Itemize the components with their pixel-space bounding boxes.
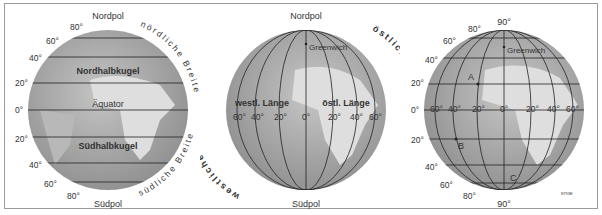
lat-label: 80° bbox=[463, 191, 476, 201]
lat-label: 60° bbox=[443, 36, 456, 46]
point-c-label: C bbox=[510, 173, 517, 183]
suedpol-label: Südpol bbox=[292, 199, 320, 209]
point-a-label: A bbox=[468, 72, 474, 82]
lon-label: 60° bbox=[430, 104, 443, 114]
lon-label: 40° bbox=[251, 112, 264, 122]
lon-label: 0° bbox=[302, 112, 310, 122]
lat-label: 40° bbox=[29, 160, 42, 170]
lat-label: 20° bbox=[15, 78, 28, 88]
lon-label: 0° bbox=[500, 104, 508, 114]
greenwich-marker bbox=[503, 46, 506, 49]
lat-label: 80° bbox=[70, 22, 83, 32]
greenwich-label: Greenwich bbox=[507, 46, 545, 55]
lat-label: 40° bbox=[29, 53, 42, 63]
panel-longitude: Greenwich Nordpol Südpol westl. Länge ös… bbox=[200, 0, 400, 215]
lat-label: 60° bbox=[46, 36, 59, 46]
nordpol-label: Nordpol bbox=[290, 11, 322, 21]
point-a-marker bbox=[477, 83, 480, 86]
suedpol-label: Südpol bbox=[94, 199, 122, 209]
lat-label: 40° bbox=[425, 55, 438, 65]
east-label: östl. Länge bbox=[322, 98, 370, 108]
lat-label: 80° bbox=[468, 24, 481, 34]
point-b-label: B bbox=[458, 141, 464, 151]
lat-label: 40° bbox=[425, 162, 438, 172]
lat-label: 60° bbox=[44, 179, 57, 189]
nordpol-label: Nordpol bbox=[92, 11, 124, 21]
lon-label: 60° bbox=[566, 104, 579, 114]
figure-code: 8793E bbox=[561, 191, 573, 196]
lat-label: 60° bbox=[440, 180, 453, 190]
lon-label: 20° bbox=[526, 104, 539, 114]
greenwich-label: Greenwich bbox=[309, 43, 347, 52]
lon-label: 40° bbox=[547, 104, 560, 114]
lon-label: 60° bbox=[233, 112, 246, 122]
lat-label: 80° bbox=[67, 191, 80, 201]
nordhalbkugel-label: Nordhalbkugel bbox=[76, 66, 139, 76]
panel-grid: Greenwich A B C 90° 90° 80° 60° 40° 20° … bbox=[400, 0, 600, 215]
lat-label: 0° bbox=[15, 105, 23, 115]
lon-label: 40° bbox=[350, 112, 363, 122]
lat-label: 0° bbox=[411, 105, 419, 115]
panel-latitude: Nordpol Südpol Nordhalbkugel Äquator Süd… bbox=[0, 0, 200, 215]
lat-label: 20° bbox=[411, 78, 424, 88]
lat-label: 20° bbox=[15, 134, 28, 144]
lon-label: 20° bbox=[274, 112, 287, 122]
north-90-label: 90° bbox=[497, 17, 511, 27]
lon-label: 40° bbox=[448, 104, 461, 114]
west-label: westl. Länge bbox=[234, 98, 289, 108]
lon-label: 60° bbox=[369, 112, 382, 122]
greenwich-marker bbox=[305, 43, 308, 46]
suedhalbkugel-label: Südhalbkugel bbox=[78, 141, 137, 151]
equator-label: Äquator bbox=[92, 99, 124, 109]
lon-label: 20° bbox=[328, 112, 341, 122]
lat-label: 20° bbox=[411, 135, 424, 145]
lon-label: 20° bbox=[472, 104, 485, 114]
south-90-label: 90° bbox=[497, 199, 511, 209]
